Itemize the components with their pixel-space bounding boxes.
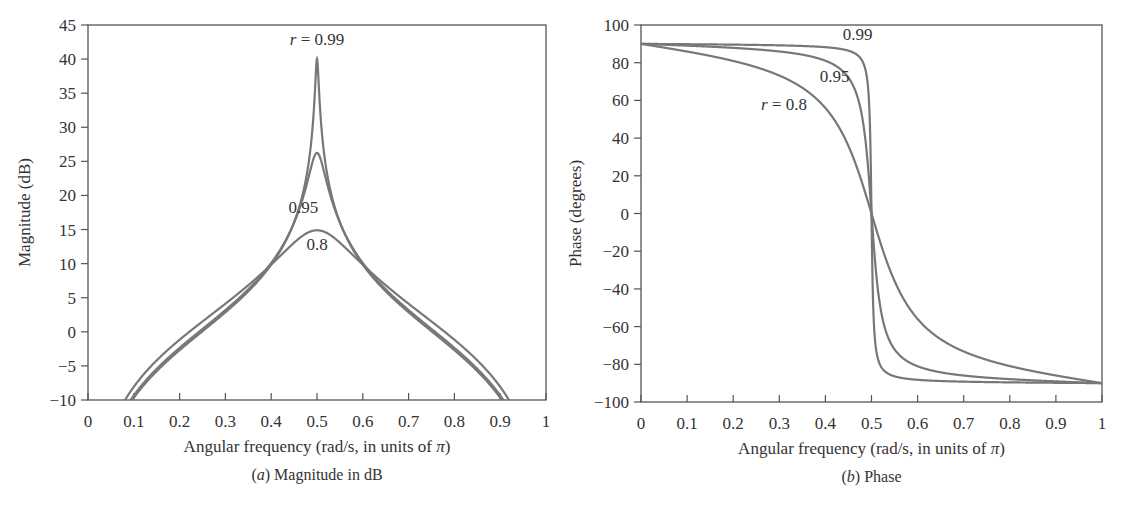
- curve-annotation: r = 0.8: [761, 95, 807, 114]
- x-tick-label: 1: [1098, 414, 1107, 433]
- y-tick-label: −80: [602, 355, 629, 374]
- y-tick-label: −60: [602, 318, 629, 337]
- y-tick-label: 0: [621, 205, 630, 224]
- y-tick-label: 35: [59, 84, 76, 103]
- x-tick-label: 0.6: [907, 414, 928, 433]
- x-tick-label: 1: [542, 412, 551, 431]
- x-tick-label: 0.7: [953, 414, 975, 433]
- y-tick-label: 25: [59, 152, 76, 171]
- series-line-0.8: [88, 230, 546, 434]
- y-tick-label: 10: [59, 255, 76, 274]
- x-tick-label: 0.9: [490, 412, 511, 431]
- y-tick-label: 100: [604, 16, 630, 35]
- x-axis-title: Angular frequency (rad/s, in units of π): [738, 439, 1005, 458]
- y-tick-label: 45: [59, 16, 76, 35]
- x-tick-label: 0.9: [1045, 414, 1066, 433]
- x-tick-label: 0.3: [215, 412, 236, 431]
- y-tick-label: 20: [612, 167, 629, 186]
- panel-caption: (b) Phase: [842, 468, 902, 486]
- x-tick-label: 0.5: [306, 412, 327, 431]
- y-tick-label: 15: [59, 221, 76, 240]
- series-line-0.8: [641, 44, 1102, 383]
- y-tick-label: 40: [612, 129, 629, 148]
- y-tick-label: 5: [68, 289, 77, 308]
- panel-caption: (a) Magnitude in dB: [251, 466, 382, 484]
- curve-annotation: r = 0.99: [290, 30, 344, 49]
- x-tick-label: 0.2: [169, 412, 190, 431]
- y-axis-title: Phase (degrees): [566, 160, 585, 267]
- y-tick-label: 30: [59, 118, 76, 137]
- y-tick-label: 60: [612, 91, 629, 110]
- y-tick-label: −100: [594, 393, 629, 412]
- curve-annotation: 0.8: [306, 235, 327, 254]
- x-tick-label: 0.3: [769, 414, 790, 433]
- y-tick-label: 80: [612, 54, 629, 73]
- y-axis-title: Magnitude (dB): [15, 158, 34, 267]
- y-tick-label: 20: [59, 186, 76, 205]
- y-tick-label: 40: [59, 50, 76, 69]
- figure: 00.10.20.30.40.50.60.70.80.91−10−5051015…: [0, 0, 1125, 508]
- x-tick-label: 0.7: [398, 412, 420, 431]
- curve-annotation: 0.99: [843, 25, 873, 44]
- x-tick-label: 0.8: [444, 412, 465, 431]
- x-tick-label: 0: [84, 412, 93, 431]
- x-tick-label: 0.2: [723, 414, 744, 433]
- x-tick-label: 0.4: [261, 412, 283, 431]
- y-tick-label: −10: [49, 391, 76, 410]
- magnitude-chart: 00.10.20.30.40.50.60.70.80.91−10−5051015…: [15, 16, 550, 484]
- x-tick-label: 0.5: [861, 414, 882, 433]
- x-tick-label: 0.6: [352, 412, 373, 431]
- x-axis-title: Angular frequency (rad/s, in units of π): [184, 437, 451, 456]
- phase-chart: 00.10.20.30.40.50.60.70.80.91−100−80−60−…: [566, 16, 1106, 486]
- y-tick-label: −20: [602, 242, 629, 261]
- y-tick-label: −5: [58, 357, 76, 376]
- x-tick-label: 0: [637, 414, 646, 433]
- x-tick-label: 0.1: [676, 414, 697, 433]
- x-tick-label: 0.1: [123, 412, 144, 431]
- y-tick-label: −40: [602, 280, 629, 299]
- curve-annotation: 0.95: [288, 198, 318, 217]
- series-line-0.95: [88, 153, 546, 434]
- x-tick-label: 0.8: [999, 414, 1020, 433]
- x-tick-label: 0.4: [815, 414, 837, 433]
- y-tick-label: 0: [68, 323, 77, 342]
- curve-annotation: 0.95: [820, 67, 850, 86]
